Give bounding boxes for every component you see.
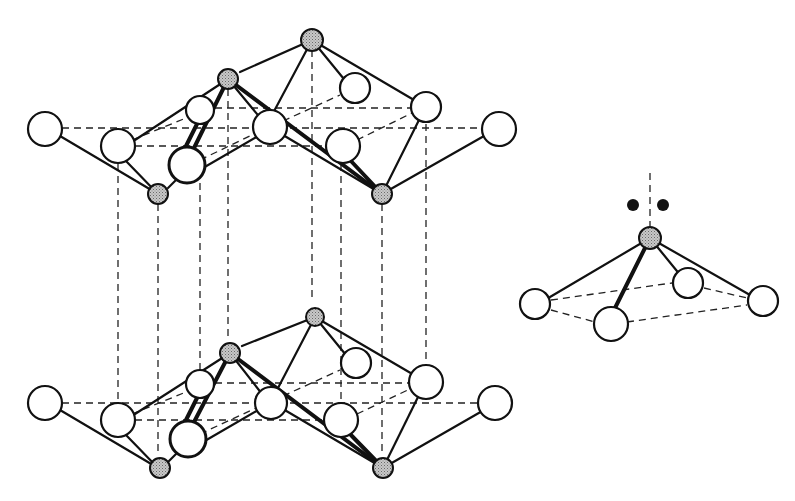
- anion-atom: [340, 73, 370, 103]
- anion-atom: [341, 348, 371, 378]
- anion-atom: [101, 403, 135, 437]
- inset-basal-plane: [551, 283, 747, 322]
- coordination-inset: [520, 173, 778, 341]
- anion-atom: [186, 370, 214, 398]
- cation-atom: [306, 308, 324, 326]
- anion-atom: [594, 307, 628, 341]
- anion-atom: [748, 286, 778, 316]
- cation-atom: [218, 69, 238, 89]
- lone-pair-dot: [627, 199, 639, 211]
- cation-atom: [372, 184, 392, 204]
- upper-layer: [28, 29, 516, 204]
- cation-atom: [220, 343, 240, 363]
- anion-atom: [482, 112, 516, 146]
- anion-atom: [28, 386, 62, 420]
- anion-atom: [255, 387, 287, 419]
- anion-atom: [186, 96, 214, 124]
- anion-atom: [409, 365, 443, 399]
- anion-atom: [101, 129, 135, 163]
- anion-atom-front: [170, 421, 206, 457]
- anion-atom: [520, 289, 550, 319]
- cation-atom: [639, 227, 661, 249]
- crystal-structure-diagram: [0, 0, 795, 501]
- lower-layer: [28, 308, 512, 478]
- cation-atom: [148, 184, 168, 204]
- anion-atom: [253, 110, 287, 144]
- anion-atom: [673, 268, 703, 298]
- cation-atom: [150, 458, 170, 478]
- upper-atoms: [28, 29, 516, 204]
- anion-atom: [324, 403, 358, 437]
- inset-atoms: [520, 227, 778, 341]
- cation-atom: [301, 29, 323, 51]
- lone-pair-dot: [657, 199, 669, 211]
- cation-atom: [373, 458, 393, 478]
- anion-atom: [478, 386, 512, 420]
- anion-atom-front: [169, 147, 205, 183]
- anion-atom: [28, 112, 62, 146]
- anion-atom: [411, 92, 441, 122]
- anion-atom: [326, 129, 360, 163]
- lower-atoms: [28, 308, 512, 478]
